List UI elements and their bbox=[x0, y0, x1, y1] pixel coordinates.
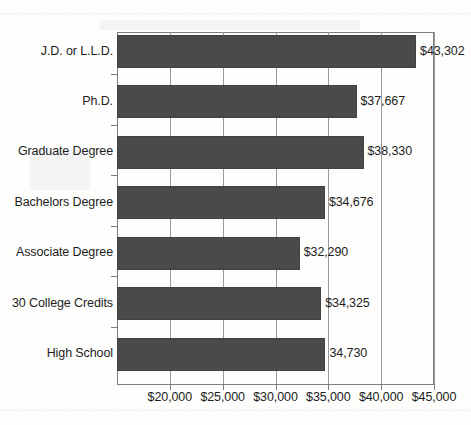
bar-chart: J.D. or L.L.D.Ph.D.Graduate DegreeBachel… bbox=[0, 0, 471, 425]
y-tick-mark bbox=[111, 226, 117, 227]
y-tick-mark bbox=[111, 175, 117, 176]
bar-value-label: $37,667 bbox=[361, 94, 406, 108]
y-tick-mark bbox=[111, 74, 117, 75]
bar bbox=[117, 237, 300, 270]
bar bbox=[117, 338, 325, 371]
scan-artifact-bottom-line bbox=[0, 410, 471, 411]
bar bbox=[117, 136, 364, 169]
category-label: Graduate Degree bbox=[18, 144, 113, 158]
x-gridline bbox=[381, 32, 382, 385]
bar-value-label: $43,302 bbox=[420, 44, 465, 58]
category-label: Ph.D. bbox=[82, 94, 113, 108]
x-tick-label: $30,000 bbox=[253, 390, 298, 404]
y-tick-mark bbox=[111, 327, 117, 328]
category-label: High School bbox=[47, 346, 113, 360]
bar-value-label: $32,290 bbox=[304, 245, 349, 259]
bar bbox=[117, 85, 357, 118]
bar bbox=[117, 287, 321, 320]
category-label: 30 College Credits bbox=[12, 296, 113, 310]
scan-artifact-top-line bbox=[0, 13, 471, 14]
bar-value-label: $34,676 bbox=[329, 195, 374, 209]
x-gridline bbox=[434, 32, 435, 385]
x-tick-label: $35,000 bbox=[306, 390, 351, 404]
y-tick-mark bbox=[111, 125, 117, 126]
bar-value-label: 34,730 bbox=[329, 346, 367, 360]
scan-smudge bbox=[100, 20, 360, 30]
y-tick-mark bbox=[111, 276, 117, 277]
x-tick-label: $45,000 bbox=[412, 390, 457, 404]
bar bbox=[117, 35, 416, 68]
category-label: Associate Degree bbox=[16, 245, 113, 259]
bar bbox=[117, 186, 325, 219]
x-tick-label: $25,000 bbox=[200, 390, 245, 404]
bar-value-label: $34,325 bbox=[325, 296, 370, 310]
x-tick-label: $40,000 bbox=[359, 390, 404, 404]
category-label: J.D. or L.L.D. bbox=[41, 44, 113, 58]
category-axis: J.D. or L.L.D.Ph.D.Graduate DegreeBachel… bbox=[0, 32, 113, 385]
plot-area bbox=[117, 32, 434, 385]
bar-value-label: $38,330 bbox=[368, 144, 413, 158]
category-label: Bachelors Degree bbox=[15, 195, 113, 209]
x-tick-label: $20,000 bbox=[148, 390, 193, 404]
